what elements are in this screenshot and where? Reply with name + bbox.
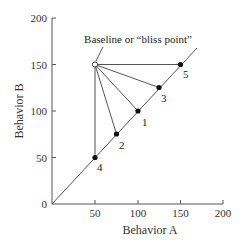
x-tick-label-100: 100: [130, 207, 147, 219]
point-4: [92, 155, 97, 160]
point-1: [135, 108, 140, 113]
chart: 200 150 100 50 0 50 100 150 200 Behavior…: [0, 0, 245, 243]
point-label-2: 2: [119, 139, 125, 151]
y-tick-label-100: 100: [31, 105, 48, 117]
x-axis-title: Behavior A: [123, 223, 178, 237]
y-tick-label-50: 50: [36, 152, 48, 164]
bliss-point-annotation: Baseline or “bliss point”: [84, 33, 192, 45]
connector-to-2: [95, 65, 117, 135]
y-tick-label-150: 150: [31, 59, 48, 71]
connector-to-3: [95, 65, 159, 88]
point-2: [114, 131, 119, 136]
point-5: [178, 62, 183, 67]
x-tick-label-150: 150: [172, 207, 189, 219]
point-label-5: 5: [183, 68, 189, 80]
diagonal-line: [52, 48, 197, 204]
point-label-4: 4: [97, 161, 103, 173]
x-tick-label-50: 50: [90, 207, 102, 219]
point-label-3: 3: [161, 92, 167, 104]
point-3: [156, 85, 161, 90]
annotation-leader: [96, 47, 103, 61]
origin-label: 0: [42, 198, 48, 210]
bliss-point-marker: [92, 62, 97, 67]
x-tick-label-200: 200: [215, 207, 232, 219]
point-label-1: 1: [142, 116, 148, 128]
y-tick-label-200: 200: [31, 12, 48, 24]
connector-to-1: [95, 65, 138, 112]
y-axis-title: Behavior B: [12, 84, 26, 139]
